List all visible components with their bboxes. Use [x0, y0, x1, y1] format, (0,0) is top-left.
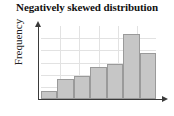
y-axis-label-wrapper: Frequency: [10, 6, 26, 78]
chart-figure: Negatively skewed distribution Frequency: [0, 0, 174, 116]
x-axis-line: [38, 99, 163, 100]
histogram-bar: [107, 64, 123, 99]
histogram-bar: [140, 53, 156, 99]
y-axis-label: Frequency: [10, 6, 26, 78]
y-axis-line: [38, 26, 39, 100]
histogram-bar: [74, 76, 90, 99]
histogram-bar: [90, 67, 106, 99]
histogram-bar: [57, 79, 73, 99]
chart-plot-area: [41, 26, 156, 99]
histogram-bar: [123, 34, 139, 99]
chart-title: Negatively skewed distribution: [0, 1, 174, 14]
arrow-right-icon: [162, 96, 168, 102]
histogram-bar: [41, 91, 57, 99]
